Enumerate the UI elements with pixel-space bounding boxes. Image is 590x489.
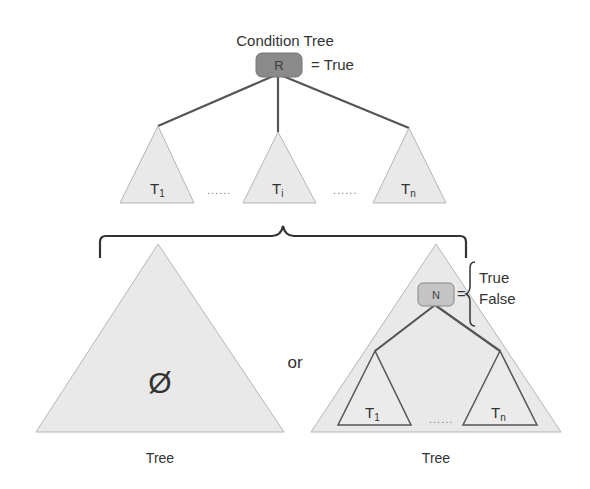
condition-node-label: N xyxy=(432,289,440,301)
empty-tree-caption: Tree xyxy=(146,450,174,466)
root-node: R xyxy=(256,53,302,77)
top-subtree-i: Ti xyxy=(243,132,316,203)
top-ellipsis-2: ...... xyxy=(333,184,357,196)
diagram-title: Condition Tree xyxy=(236,32,334,49)
top-subtree-n: Tn xyxy=(373,128,446,203)
conditional-tree: T1 ...... Tn N xyxy=(311,244,561,432)
child-ellipsis: ...... xyxy=(429,413,453,425)
value-false: False xyxy=(479,290,516,307)
root-node-label: R xyxy=(274,58,283,73)
empty-tree: Ø xyxy=(36,244,284,432)
condition-node: N xyxy=(418,283,454,306)
condition-tree-diagram: Condition Tree R = True T1 ...... Ti ...… xyxy=(0,0,590,489)
or-separator: or xyxy=(287,353,302,372)
conditional-tree-caption: Tree xyxy=(422,450,450,466)
top-subtree-1: T1 xyxy=(120,126,194,203)
value-true: True xyxy=(479,269,509,286)
root-value: = True xyxy=(311,56,354,73)
empty-set-symbol: Ø xyxy=(148,366,171,399)
top-ellipsis-1: ...... xyxy=(207,184,231,196)
condition-equals: = xyxy=(457,285,466,302)
root-edges xyxy=(158,74,409,132)
